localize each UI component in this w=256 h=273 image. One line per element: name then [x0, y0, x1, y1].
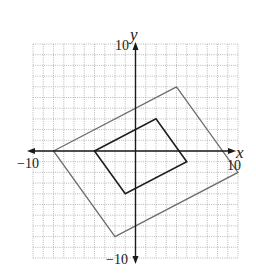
x-max-tick-label: 10 [227, 158, 241, 173]
x-axis-arrow-right-icon [228, 148, 236, 154]
inner-quadrilateral [95, 119, 187, 194]
y-axis-label: y [128, 25, 138, 44]
y-axis-arrow-down-icon [133, 256, 139, 264]
y-max-tick-label: 10 [115, 38, 129, 53]
y-min-tick-label: −10 [106, 252, 128, 267]
x-axis-arrow-left-icon [27, 148, 35, 154]
coordinate-plane: x y −10 10 10 −10 [0, 0, 256, 273]
x-min-tick-label: −10 [17, 156, 39, 171]
coordinate-plane-figure: x y −10 10 10 −10 [0, 0, 256, 273]
axes [27, 42, 236, 264]
